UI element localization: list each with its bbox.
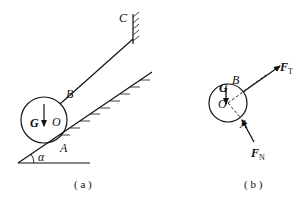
dashed-OA bbox=[228, 103, 240, 117]
diagram-canvas: α G O A B C ( a ) G O bbox=[0, 0, 305, 200]
normal-arrow bbox=[242, 120, 254, 142]
label-G-b: G bbox=[219, 81, 228, 95]
label-G: G bbox=[30, 116, 39, 130]
label-FN: F bbox=[250, 146, 259, 160]
label-O-b: O bbox=[218, 97, 227, 111]
caption-a: ( a ) bbox=[74, 178, 92, 191]
label-B: B bbox=[66, 87, 74, 101]
angle-arc bbox=[31, 154, 34, 163]
figure-a: α G O A B C ( a ) bbox=[18, 11, 152, 191]
caption-b: ( b ) bbox=[244, 178, 263, 191]
label-alpha: α bbox=[38, 150, 45, 164]
figure-b: G O B A F T F N ( b ) bbox=[209, 60, 293, 191]
wall-hatching bbox=[133, 12, 139, 41]
incline-hatching bbox=[60, 80, 150, 135]
label-A: A bbox=[59, 141, 68, 155]
tension-arrow bbox=[243, 66, 280, 92]
label-FT: F bbox=[279, 60, 288, 74]
label-C: C bbox=[119, 11, 128, 25]
label-FT-sub: T bbox=[288, 67, 293, 76]
label-O: O bbox=[52, 115, 61, 129]
label-B-b: B bbox=[232, 73, 240, 87]
label-FN-sub: N bbox=[259, 153, 265, 162]
